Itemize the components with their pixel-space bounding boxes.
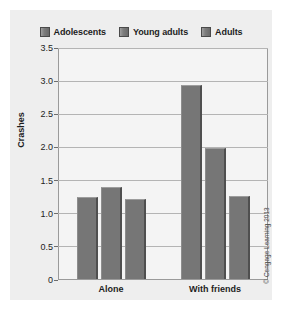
y-axis-tick-mark (54, 280, 58, 281)
y-axis-tick-mark (54, 48, 58, 49)
bar-young-adults[interactable] (101, 187, 122, 279)
bar-adults[interactable] (229, 196, 250, 279)
figure-panel: Adolescents Young adults Adults Crashes … (10, 10, 272, 300)
y-axis-tick-label: 2.5 (40, 109, 53, 119)
y-axis-tick-label: 3.0 (40, 76, 53, 86)
x-axis-group-label: Alone (98, 284, 123, 294)
bar-group: With friends (163, 49, 267, 279)
legend-swatch-icon (40, 27, 50, 37)
bar-series-container: AloneWith friends (59, 49, 267, 279)
bar-group: Alone (59, 49, 163, 279)
legend-item-adolescents: Adolescents (40, 27, 106, 37)
y-axis-tick-label: 3.5 (40, 43, 53, 53)
bar-young-adults[interactable] (205, 148, 226, 279)
y-axis-title-label: Crashes (16, 112, 26, 148)
y-axis-tick-mark (54, 147, 58, 148)
plot-wrapper: 00.51.01.52.02.53.03.5 AloneWith friends (58, 48, 268, 280)
legend-label: Adults (215, 27, 242, 37)
legend-label: Young adults (133, 27, 188, 37)
y-axis-tick-mark (54, 114, 58, 115)
legend-label: Adolescents (54, 27, 106, 37)
chart-legend: Adolescents Young adults Adults (10, 24, 272, 40)
y-axis-tick-label: 0.5 (40, 242, 53, 252)
y-axis-tick-mark (54, 246, 58, 247)
y-axis-tick-label: 2.0 (40, 142, 53, 152)
legend-swatch-icon (119, 27, 129, 37)
copyright-credit: © Cengage Learning 2013 (260, 185, 272, 305)
x-axis-group-label: With friends (189, 284, 241, 294)
bar-adolescents[interactable] (181, 85, 202, 279)
y-axis-title: Crashes (14, 10, 28, 250)
y-axis-tick-label: 1.0 (40, 209, 53, 219)
bar-adults[interactable] (125, 199, 146, 279)
bar-adolescents[interactable] (77, 197, 98, 279)
y-axis-tick-mark (54, 81, 58, 82)
y-axis-tick-label: 0 (48, 275, 53, 285)
legend-item-adults: Adults (201, 27, 242, 37)
y-axis-tick-mark (54, 180, 58, 181)
y-axis-tick-label: 1.5 (40, 176, 53, 186)
copyright-text: © Cengage Learning 2013 (263, 207, 270, 283)
legend-swatch-icon (201, 27, 211, 37)
legend-item-young-adults: Young adults (119, 27, 188, 37)
y-axis-tick-mark (54, 213, 58, 214)
